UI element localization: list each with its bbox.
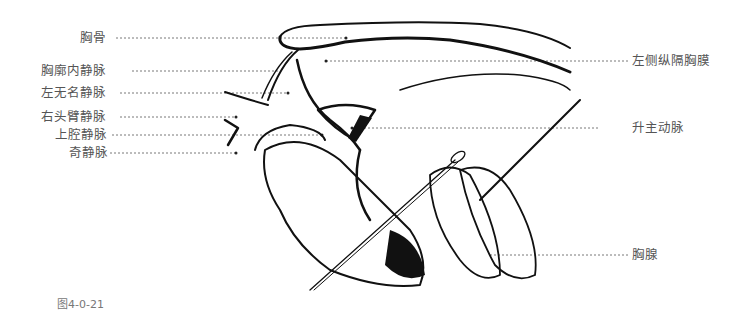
- anatomy-illustration: [0, 0, 755, 316]
- label-left-innominate-vein: 左无名静脉: [41, 85, 106, 101]
- label-sternum: 胸骨: [80, 30, 106, 46]
- label-right-brachiocephalic-vein: 右头臂静脉: [41, 109, 106, 125]
- label-superior-vena-cava: 上腔静脉: [55, 127, 107, 143]
- leader-lines: [110, 38, 628, 255]
- label-thymus: 胸腺: [632, 247, 658, 263]
- figure-caption: 图4-0-21: [57, 295, 104, 311]
- label-internal-thoracic-vein: 胸廓内静脉: [41, 63, 106, 79]
- label-azygos-vein: 奇静脉: [69, 145, 108, 161]
- label-ascending-aorta: 升主动脉: [632, 120, 684, 136]
- label-left-mediastinal-pleura: 左侧纵隔胸膜: [632, 53, 710, 69]
